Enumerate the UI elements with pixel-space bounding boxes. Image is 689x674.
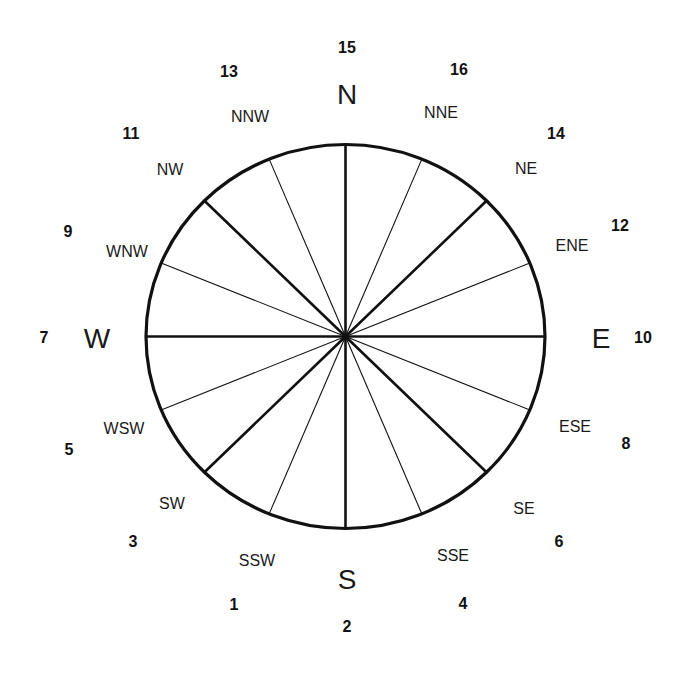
cardinal-label-s: S bbox=[338, 566, 357, 594]
minor-spoke bbox=[161, 263, 345, 336]
cardinal-label-w: W bbox=[84, 325, 110, 353]
direction-label-ene: ENE bbox=[556, 238, 589, 254]
number-label-5: 5 bbox=[65, 442, 74, 458]
direction-label-nnw: NNW bbox=[231, 109, 269, 125]
cardinal-label-e: E bbox=[592, 325, 611, 353]
direction-label-ne: NE bbox=[515, 161, 537, 177]
number-label-14: 14 bbox=[547, 126, 565, 142]
number-label-8: 8 bbox=[622, 436, 631, 452]
direction-label-sw: SW bbox=[159, 496, 185, 512]
number-label-11: 11 bbox=[123, 126, 140, 142]
minor-spoke bbox=[161, 337, 345, 410]
direction-label-nne: NNE bbox=[424, 105, 458, 121]
number-label-7: 7 bbox=[40, 330, 49, 346]
direction-label-ese: ESE bbox=[559, 419, 591, 435]
direction-label-wsw: WSW bbox=[104, 421, 145, 437]
number-label-3: 3 bbox=[129, 534, 138, 550]
major-spoke bbox=[204, 337, 345, 473]
direction-label-se: SE bbox=[513, 501, 534, 517]
number-label-4: 4 bbox=[459, 596, 468, 612]
direction-label-wnw: WNW bbox=[106, 244, 148, 260]
direction-label-ssw: SSW bbox=[239, 553, 275, 569]
major-spoke bbox=[204, 201, 345, 337]
minor-spoke bbox=[346, 263, 530, 336]
minor-spoke bbox=[346, 337, 422, 514]
number-label-13: 13 bbox=[220, 64, 238, 80]
number-label-12: 12 bbox=[611, 218, 629, 234]
cardinal-label-n: N bbox=[337, 81, 357, 109]
number-label-6: 6 bbox=[555, 534, 564, 550]
direction-label-nw: NW bbox=[157, 162, 184, 178]
minor-spoke bbox=[346, 159, 422, 336]
number-label-9: 9 bbox=[64, 224, 73, 240]
major-spoke bbox=[346, 337, 487, 473]
major-spoke bbox=[346, 201, 487, 337]
minor-spoke bbox=[269, 337, 345, 514]
number-label-1: 1 bbox=[230, 597, 239, 613]
number-label-16: 16 bbox=[450, 62, 468, 78]
compass-rose-diagram: NESWNNENEENEESESESSESSWSWWSWWNWNWNNW1516… bbox=[0, 0, 689, 674]
number-label-15: 15 bbox=[338, 40, 356, 56]
minor-spoke bbox=[346, 337, 530, 410]
direction-label-sse: SSE bbox=[437, 548, 469, 564]
number-label-2: 2 bbox=[343, 619, 352, 635]
number-label-10: 10 bbox=[634, 330, 652, 346]
minor-spoke bbox=[269, 159, 345, 336]
